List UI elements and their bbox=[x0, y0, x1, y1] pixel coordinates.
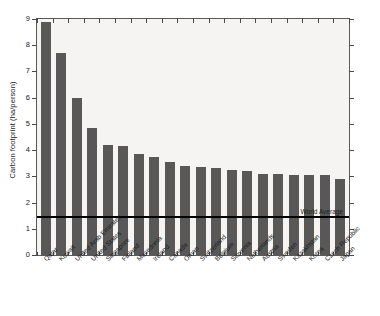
world-average-label: World Average bbox=[301, 208, 343, 215]
y-tick bbox=[32, 229, 37, 230]
y-tick bbox=[32, 150, 37, 151]
x-tick-top bbox=[84, 18, 85, 23]
x-tick-top bbox=[318, 18, 319, 23]
y-tick bbox=[32, 98, 37, 99]
bar-slot bbox=[38, 19, 54, 255]
bar-slot bbox=[302, 19, 318, 255]
y-tick-label: 6 bbox=[26, 94, 30, 102]
y-tick-label: 8 bbox=[26, 41, 30, 49]
y-tick-label: 3 bbox=[26, 173, 30, 181]
bar-slot bbox=[240, 19, 256, 255]
x-tick-top bbox=[333, 18, 334, 23]
bar-canada bbox=[165, 162, 175, 255]
y-tick-label: 2 bbox=[26, 199, 30, 207]
bar-slot bbox=[209, 19, 225, 255]
bar-slot bbox=[255, 19, 271, 255]
bar-qatar bbox=[41, 22, 51, 255]
bar-slot bbox=[131, 19, 147, 255]
y-tick-label: 9 bbox=[26, 15, 30, 23]
y-tick bbox=[32, 176, 37, 177]
x-tick-bottom bbox=[37, 252, 38, 256]
y-tick-right bbox=[349, 98, 354, 99]
bar-slot bbox=[333, 19, 349, 255]
bar-macedonia bbox=[134, 154, 144, 255]
carbon-footprint-bar-chart: Carbon footprint (ha/person) 0123456789 … bbox=[0, 0, 380, 316]
plot-area: 0123456789 World Average bbox=[36, 18, 350, 256]
y-tick-label: 5 bbox=[26, 120, 30, 128]
bar-slot bbox=[162, 19, 178, 255]
x-tick-top bbox=[271, 18, 272, 23]
x-tick-top bbox=[177, 18, 178, 23]
x-tick-top bbox=[193, 18, 194, 23]
bar-slot bbox=[69, 19, 85, 255]
y-tick-label: 7 bbox=[26, 68, 30, 76]
y-tick-label: 1 bbox=[26, 225, 30, 233]
y-tick-label: 0 bbox=[26, 251, 30, 259]
x-tick-top bbox=[349, 18, 350, 23]
bar-slot bbox=[224, 19, 240, 255]
x-tick-top bbox=[224, 18, 225, 23]
bar-slot bbox=[178, 19, 194, 255]
bar-slot bbox=[317, 19, 333, 255]
y-tick-right bbox=[349, 71, 354, 72]
y-tick bbox=[32, 124, 37, 125]
y-tick-right bbox=[349, 45, 354, 46]
y-tick-right bbox=[349, 203, 354, 204]
bar-slot bbox=[271, 19, 287, 255]
bar-kuwait bbox=[56, 53, 66, 255]
bar-series bbox=[37, 19, 349, 255]
x-tick-top bbox=[146, 18, 147, 23]
x-tick-top bbox=[131, 18, 132, 23]
bar-slot bbox=[147, 19, 163, 255]
x-tick-top bbox=[68, 18, 69, 23]
y-tick bbox=[32, 45, 37, 46]
x-tick-top bbox=[209, 18, 210, 23]
x-tick-top bbox=[53, 18, 54, 23]
y-tick bbox=[32, 203, 37, 204]
bar-slot bbox=[54, 19, 70, 255]
y-tick-right bbox=[349, 150, 354, 151]
x-tick-top bbox=[240, 18, 241, 23]
y-tick-label: 4 bbox=[26, 146, 30, 154]
world-average-line: World Average bbox=[37, 216, 349, 218]
bar-united-arab-emirates bbox=[72, 98, 82, 255]
x-tick-top bbox=[302, 18, 303, 23]
x-tick-top bbox=[115, 18, 116, 23]
bar-slot bbox=[193, 19, 209, 255]
x-axis-tick-labels: QatarKuwaitUnited Arab EmiratesUnited St… bbox=[36, 258, 350, 314]
x-tick-top bbox=[37, 18, 38, 23]
y-axis-label: Carbon footprint (ha/person) bbox=[6, 2, 20, 258]
bar-slot bbox=[85, 19, 101, 255]
bar-switzerland bbox=[196, 167, 206, 255]
x-tick-top bbox=[287, 18, 288, 23]
x-tick-top bbox=[162, 18, 163, 23]
y-tick bbox=[32, 71, 37, 72]
y-tick-right bbox=[349, 176, 354, 177]
x-tick-top bbox=[255, 18, 256, 23]
y-tick-right bbox=[349, 124, 354, 125]
bar-slot bbox=[286, 19, 302, 255]
x-tick-top bbox=[99, 18, 100, 23]
